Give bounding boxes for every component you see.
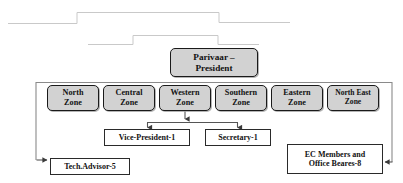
node-zone-central: Central Zone bbox=[103, 85, 155, 111]
node-zone-north-label: North Zone bbox=[61, 88, 86, 107]
node-zone-central-label: Central Zone bbox=[114, 88, 145, 107]
node-tech-advisor: Tech.Advisor-5 bbox=[50, 158, 130, 175]
node-ec-members: EC Members and Office Beares-8 bbox=[287, 144, 383, 174]
node-parivaar-president-label: Parivaar – President bbox=[191, 52, 236, 74]
node-zone-southern-label: Southern Zone bbox=[223, 88, 259, 107]
node-vice-president-label: Vice-President-1 bbox=[117, 133, 177, 142]
node-zone-eastern-label: Eastern Zone bbox=[281, 88, 312, 107]
scan-artifact-line-second bbox=[88, 36, 259, 45]
node-secretary-label: Secretary-1 bbox=[216, 133, 259, 142]
node-zone-north-east-label: North East Zone bbox=[333, 89, 373, 107]
node-zone-southern: Southern Zone bbox=[215, 85, 267, 111]
node-secretary: Secretary-1 bbox=[205, 129, 271, 146]
node-zone-eastern: Eastern Zone bbox=[271, 85, 323, 111]
node-zone-western: Western Zone bbox=[159, 85, 211, 111]
node-zone-western-label: Western Zone bbox=[168, 88, 201, 107]
node-ec-members-label: EC Members and Office Beares-8 bbox=[303, 150, 367, 169]
node-parivaar-president: Parivaar – President bbox=[170, 48, 258, 77]
node-tech-advisor-label: Tech.Advisor-5 bbox=[62, 162, 118, 171]
node-vice-president: Vice-President-1 bbox=[104, 129, 190, 146]
organization-chart: Parivaar – President North Zone Central … bbox=[0, 0, 403, 183]
node-zone-north-east: North East Zone bbox=[327, 85, 379, 111]
scan-artifact-line-top bbox=[8, 13, 290, 24]
node-zone-north: North Zone bbox=[47, 85, 99, 111]
